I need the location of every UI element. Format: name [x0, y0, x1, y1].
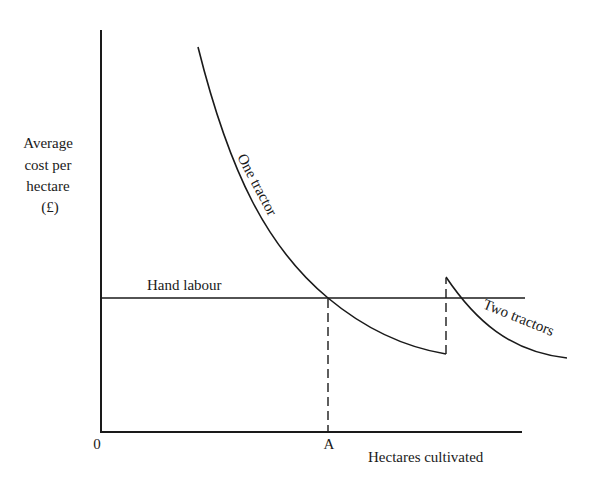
two-tractors-label: Two tractors — [481, 296, 557, 339]
hand-labour-label: Hand labour — [147, 277, 222, 293]
y-axis-label-line3: hectare — [26, 178, 70, 194]
y-axis-label-line4: (£) — [41, 199, 59, 216]
origin-label: 0 — [93, 436, 101, 452]
y-axis-label-line2: cost per — [24, 157, 71, 173]
x-axis-label: Hectares cultivated — [368, 449, 484, 465]
y-axis-label-line1: Average — [23, 135, 73, 151]
point-a-label: A — [324, 436, 335, 452]
one-tractor-curve — [198, 47, 446, 354]
cost-curve-diagram: Average cost per hectare (£) Hand labour… — [0, 0, 596, 477]
one-tractor-label: One tractor — [234, 151, 280, 218]
